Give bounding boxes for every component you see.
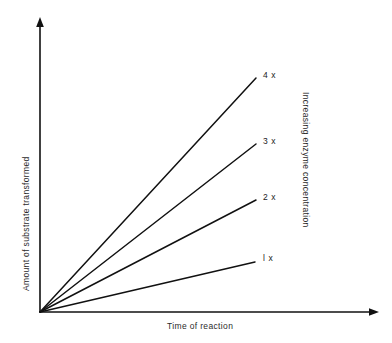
plot-area [0,0,392,343]
x-axis-arrowhead-icon [369,308,379,316]
series-label-2x: 2 x [263,193,276,202]
x-axis-title: Time of reaction [167,322,233,331]
series-label-3x: 3 x [263,137,276,146]
series-line-2x [40,200,256,312]
right-axis-title: Increasing enzyme concentration [302,92,311,228]
enzyme-kinetics-chart: l x 2 x 3 x 4 x Amount of substrate tran… [0,0,392,343]
y-axis-title: Amount of substrate transformed [22,156,31,291]
series-label-4x: 4 x [263,71,276,80]
series-line-4x [40,78,256,312]
series-label-1x: l x [263,254,273,263]
y-axis-arrowhead-icon [36,17,44,27]
